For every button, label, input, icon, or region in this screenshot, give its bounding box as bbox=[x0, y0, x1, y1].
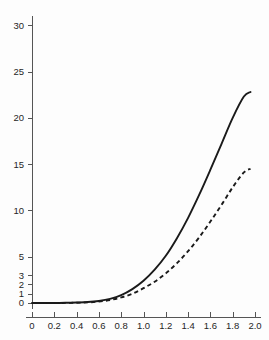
y-tick-label: 5 bbox=[19, 251, 24, 262]
x-tick-label: 0 bbox=[29, 320, 34, 331]
x-tick-label: 1.2 bbox=[159, 320, 172, 331]
x-tick-label: 0.2 bbox=[48, 320, 61, 331]
y-tick-label: 20 bbox=[13, 112, 24, 123]
y-tick-label: 3 bbox=[19, 270, 24, 281]
x-tick-label: 2.0 bbox=[248, 320, 261, 331]
y-tick-label: 30 bbox=[13, 20, 24, 31]
chart-container: 012351015202530 00.20.40.60.81.01.21.41.… bbox=[0, 0, 269, 340]
y-axis: 012351015202530 bbox=[13, 16, 32, 309]
x-tick-label: 0.4 bbox=[70, 320, 83, 331]
x-axis: 00.20.40.60.81.01.21.41.61.82.0 bbox=[26, 312, 262, 331]
data-series-group bbox=[32, 92, 251, 303]
y-tick-label: 25 bbox=[13, 66, 24, 77]
x-tick-label: 1.6 bbox=[204, 320, 217, 331]
x-tick-label: 1.0 bbox=[137, 320, 150, 331]
x-tick-label: 0.6 bbox=[92, 320, 105, 331]
x-tick-label: 1.4 bbox=[181, 320, 194, 331]
y-tick-label: 10 bbox=[13, 205, 24, 216]
x-tick-label: 0.8 bbox=[115, 320, 128, 331]
series-solid-curve bbox=[32, 92, 251, 303]
chart-plot: 012351015202530 00.20.40.60.81.01.21.41.… bbox=[0, 0, 269, 340]
x-tick-label: 1.8 bbox=[226, 320, 239, 331]
y-tick-label: 15 bbox=[13, 159, 24, 170]
